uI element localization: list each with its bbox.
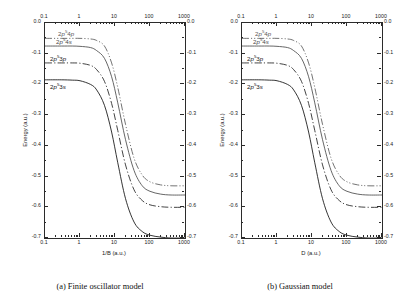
x-tick-minor-top	[268, 22, 269, 24]
x-tick-label: 10	[308, 240, 314, 245]
y-tick-label-left: -0.6	[229, 204, 238, 209]
x-tick-minor	[335, 235, 336, 237]
y-tick-label-left: -0.1	[229, 50, 238, 55]
x-tick-label: 1000	[178, 240, 190, 245]
x-tick-label-top: 10	[308, 14, 314, 19]
x-tick-minor-top	[252, 22, 253, 24]
y-tick-minor	[241, 160, 243, 161]
x-tick-minor	[265, 235, 266, 237]
y-tick-major-right	[377, 22, 381, 23]
x-tick-minor-top	[370, 22, 371, 24]
y-tick-major-right	[180, 145, 184, 146]
x-tick-minor	[328, 235, 329, 237]
x-tick-label-top: 1	[78, 14, 81, 19]
y-tick-label-right: -0.3	[187, 112, 196, 117]
y-tick-major-right	[377, 114, 381, 115]
x-tick-minor-top	[367, 22, 368, 24]
x-tick-minor-top	[300, 22, 301, 24]
y-tick-label-right: -0.1	[384, 50, 393, 55]
x-tick-minor-top	[61, 22, 62, 24]
x-tick-major-top	[149, 22, 150, 26]
y-axis-title-a: Energy (a.u.)	[22, 113, 28, 147]
x-tick-minor	[322, 235, 323, 237]
curve-label-2p53p: 2p53p	[247, 55, 263, 62]
x-tick-minor-top	[68, 22, 69, 24]
y-tick-minor	[241, 68, 243, 69]
y-tick-label-left: -0.2	[32, 81, 41, 86]
x-tick-minor	[74, 235, 75, 237]
y-tick-label-right: -0.3	[384, 112, 393, 117]
y-tick-major	[241, 237, 245, 238]
curve-2p53s	[45, 80, 185, 238]
figure-root: 0.10.1111010100100100010000.00.0-0.1-0.1…	[0, 0, 401, 295]
y-tick-minor-right	[379, 68, 381, 69]
x-tick-minor	[166, 235, 167, 237]
y-tick-label-right: -0.5	[187, 173, 196, 178]
y-tick-label-right: 0.0	[384, 19, 392, 24]
x-tick-major	[114, 233, 115, 237]
x-tick-minor	[367, 235, 368, 237]
y-tick-minor-right	[182, 68, 184, 69]
x-tick-minor	[306, 235, 307, 237]
curve-2p53p	[45, 63, 185, 207]
x-tick-minor	[55, 235, 56, 237]
x-tick-minor-top	[328, 22, 329, 24]
x-tick-minor-top	[100, 22, 101, 24]
x-tick-minor-top	[271, 22, 272, 24]
x-tick-minor	[341, 235, 342, 237]
y-tick-minor	[44, 191, 46, 192]
y-tick-label-left: -0.2	[229, 81, 238, 86]
x-tick-minor-top	[109, 22, 110, 24]
x-tick-label-top: 1	[275, 14, 278, 19]
x-tick-minor	[363, 235, 364, 237]
y-tick-major	[44, 145, 48, 146]
y-tick-label-left: -0.1	[32, 50, 41, 55]
y-tick-label-left: -0.3	[229, 112, 238, 117]
x-tick-minor	[160, 235, 161, 237]
y-tick-minor-right	[182, 37, 184, 38]
x-tick-minor-top	[332, 22, 333, 24]
x-tick-label-top: 100	[145, 14, 154, 19]
x-tick-minor-top	[166, 22, 167, 24]
y-tick-label-right: -0.2	[384, 81, 393, 86]
x-tick-major	[346, 233, 347, 237]
x-tick-minor-top	[306, 22, 307, 24]
curve-label-2p54s: 2p54s	[253, 38, 269, 45]
x-tick-minor	[141, 235, 142, 237]
x-tick-minor	[96, 235, 97, 237]
x-tick-minor	[303, 235, 304, 237]
curve-2p54s	[242, 46, 382, 195]
y-tick-minor	[241, 191, 243, 192]
y-tick-label-right: -0.7	[187, 234, 196, 239]
x-tick-minor	[61, 235, 62, 237]
y-tick-major	[44, 176, 48, 177]
y-tick-major	[241, 83, 245, 84]
x-tick-minor-top	[265, 22, 266, 24]
x-tick-minor	[252, 235, 253, 237]
x-tick-minor-top	[141, 22, 142, 24]
x-tick-minor-top	[176, 22, 177, 24]
x-tick-minor-top	[173, 22, 174, 24]
y-tick-major	[241, 53, 245, 54]
x-tick-minor	[262, 235, 263, 237]
x-tick-minor-top	[341, 22, 342, 24]
x-tick-minor	[106, 235, 107, 237]
y-tick-major	[241, 176, 245, 177]
x-tick-minor	[100, 235, 101, 237]
x-tick-minor	[338, 235, 339, 237]
x-tick-minor-top	[322, 22, 323, 24]
curve-2p53s	[242, 80, 382, 238]
x-tick-major-top	[346, 22, 347, 26]
y-tick-minor-right	[182, 99, 184, 100]
curve-2p54s	[45, 46, 185, 195]
y-tick-minor-right	[379, 222, 381, 223]
x-tick-minor-top	[303, 22, 304, 24]
y-tick-minor-right	[379, 130, 381, 131]
x-tick-minor-top	[363, 22, 364, 24]
y-tick-major-right	[180, 206, 184, 207]
x-tick-minor	[173, 235, 174, 237]
x-tick-label: 1	[275, 240, 278, 245]
x-tick-minor-top	[74, 22, 75, 24]
x-tick-minor-top	[297, 22, 298, 24]
y-tick-label-right: -0.1	[187, 50, 196, 55]
